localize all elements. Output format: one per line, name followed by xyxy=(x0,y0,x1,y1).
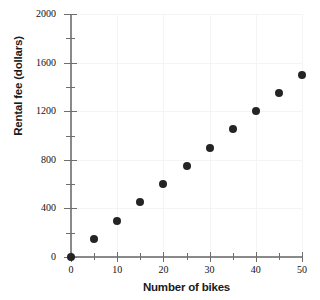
y-axis-tick-major xyxy=(64,14,77,15)
gridline-vertical xyxy=(210,14,211,257)
data-point xyxy=(252,107,260,115)
chart-page: Rental fee (dollars) Number of bikes 040… xyxy=(0,0,320,300)
gridline-vertical xyxy=(302,14,303,257)
gridline-horizontal xyxy=(71,208,302,209)
y-axis-title: Rental fee (dollars) xyxy=(12,0,24,176)
x-axis-tick-label: 30 xyxy=(195,264,225,275)
gridline-vertical xyxy=(256,14,257,257)
gridline-horizontal xyxy=(71,111,302,112)
y-axis-tick-label: 1600 xyxy=(8,57,56,68)
x-axis-tick-major xyxy=(117,252,118,262)
plot-area xyxy=(71,14,302,257)
gridline-horizontal xyxy=(71,160,302,161)
y-axis-tick-label: 1200 xyxy=(8,105,56,116)
y-axis-tick-label: 800 xyxy=(8,154,56,165)
data-point xyxy=(298,71,306,79)
data-point xyxy=(113,217,121,225)
x-axis-tick-minor xyxy=(94,253,95,260)
gridline-horizontal xyxy=(71,63,302,64)
y-axis-tick-minor xyxy=(66,87,75,88)
y-axis-tick-major xyxy=(64,63,77,64)
x-axis-tick-label: 10 xyxy=(102,264,132,275)
y-axis-tick-label: 2000 xyxy=(8,8,56,19)
y-axis-tick-minor xyxy=(66,184,75,185)
y-axis-tick-major xyxy=(64,208,77,209)
y-axis-tick-minor xyxy=(66,233,75,234)
x-axis-title: Number of bikes xyxy=(71,281,302,293)
data-point xyxy=(275,89,283,97)
x-axis-tick-minor xyxy=(233,253,234,260)
x-axis-tick-label: 20 xyxy=(148,264,178,275)
x-axis-tick-major xyxy=(163,252,164,262)
x-axis-tick-label: 0 xyxy=(56,264,86,275)
x-axis-tick-major xyxy=(256,252,257,262)
gridline-horizontal xyxy=(71,14,302,15)
data-point xyxy=(183,162,191,170)
gridline-vertical xyxy=(163,14,164,257)
data-point xyxy=(67,253,75,261)
chart-title xyxy=(0,0,320,3)
x-axis-tick-major xyxy=(210,252,211,262)
x-axis-tick-minor xyxy=(140,253,141,260)
x-axis-tick-minor xyxy=(187,253,188,260)
data-point xyxy=(206,144,214,152)
y-axis-tick-minor xyxy=(66,38,75,39)
y-axis-tick-label: 0 xyxy=(8,251,56,262)
y-axis-tick-minor xyxy=(66,136,75,137)
y-axis-tick-label: 400 xyxy=(8,202,56,213)
data-point xyxy=(90,235,98,243)
y-axis-tick-major xyxy=(64,160,77,161)
x-axis-tick-minor xyxy=(279,253,280,260)
x-axis-tick-major xyxy=(302,252,303,262)
x-axis-tick-label: 50 xyxy=(287,264,317,275)
x-axis-tick-label: 40 xyxy=(241,264,271,275)
y-axis-tick-major xyxy=(64,111,77,112)
